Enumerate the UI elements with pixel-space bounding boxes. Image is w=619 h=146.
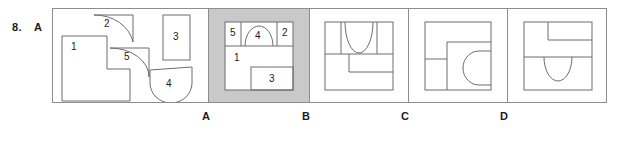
option-a-label-2: 2 (282, 27, 288, 38)
option-a-drawing: 5 4 2 1 3 (209, 9, 309, 102)
option-d-outer (524, 22, 592, 90)
option-a-label-5: 5 (230, 27, 236, 38)
piece-1-label: 1 (71, 41, 77, 52)
option-d-drawing (508, 9, 606, 102)
question-number: 8. (12, 21, 22, 33)
piece-5-label: 5 (124, 51, 130, 62)
figure-root: 8. A 1 2 5 3 4 (0, 0, 619, 146)
option-cell-b[interactable] (310, 9, 408, 102)
option-c-drawing (409, 9, 507, 102)
answer-strip: 1 2 5 3 4 (52, 8, 607, 103)
option-cell-d[interactable] (508, 9, 606, 102)
piece-2-label: 2 (104, 18, 110, 29)
option-label-b: B (286, 110, 326, 122)
piece-4-label: 4 (166, 78, 172, 89)
option-label-c: C (385, 110, 425, 122)
piece-3-label: 3 (173, 31, 179, 42)
option-label-d: D (484, 110, 524, 122)
option-a-label-4: 4 (255, 30, 261, 41)
pieces-drawing: 1 2 5 3 4 (53, 9, 208, 102)
option-label-a: A (186, 110, 226, 122)
option-a-label-3: 3 (269, 73, 275, 84)
option-cell-a[interactable]: 5 4 2 1 3 (209, 9, 309, 102)
pieces-panel: 1 2 5 3 4 (53, 9, 208, 102)
option-c-outer (425, 22, 491, 90)
option-a-label-1: 1 (234, 52, 240, 63)
option-b-drawing (310, 9, 408, 102)
option-b-outer (325, 22, 393, 90)
question-number-answer: 8. A (12, 21, 42, 33)
option-cell-c[interactable] (409, 9, 507, 102)
question-answer-letter: A (34, 21, 42, 33)
